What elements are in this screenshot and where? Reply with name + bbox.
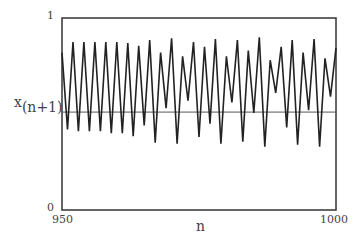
x-axis-title: n <box>196 218 205 234</box>
plot-frame <box>62 18 336 210</box>
x-tick-max: 1000 <box>320 213 348 226</box>
y-axis-title: x(n+1) <box>14 94 62 115</box>
y-axis-title-base: x <box>14 94 22 110</box>
y-tick-max: 1 <box>47 9 54 22</box>
series-line <box>62 37 336 146</box>
x-tick-min: 950 <box>52 213 73 226</box>
y-axis-title-subscript: (n+1) <box>22 99 63 115</box>
